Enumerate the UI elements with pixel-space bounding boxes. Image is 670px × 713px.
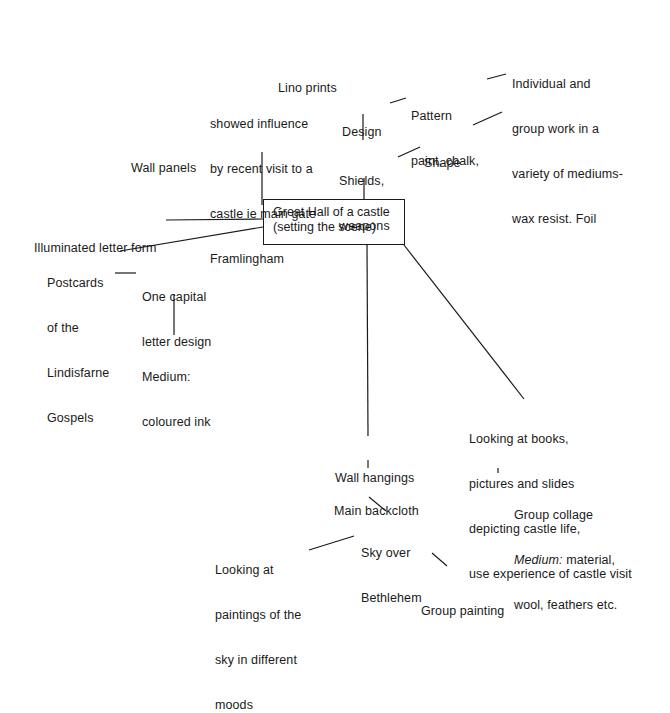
node-wall-panels: Wall panels (131, 131, 196, 191)
node-text: sky in different (215, 653, 301, 668)
node-text: Postcards (47, 276, 109, 291)
medium-label: Medium: (514, 553, 563, 567)
node-shields-weapons: Shields, weapons (339, 144, 390, 249)
node-showed-influence: showed influence by recent visit to a ca… (210, 87, 316, 282)
node-text: Bethlehem (361, 591, 422, 606)
node-text: of the (47, 321, 109, 336)
node-sky-over-bethlehem: Sky over Bethlehem (361, 516, 422, 621)
node-text: Gospels (47, 411, 109, 426)
node-text: group work in a (512, 122, 623, 137)
node-individual-group-work: Individual and group work in a variety o… (512, 47, 623, 242)
node-text: Individual and (512, 77, 623, 92)
node-text: Wall panels (131, 161, 196, 176)
node-text: Group collage (514, 508, 617, 523)
node-text: One capital (142, 290, 211, 305)
node-text: Medium: (142, 370, 211, 385)
link-center-books (404, 245, 524, 399)
node-text: Pattern (411, 109, 479, 124)
node-group-painting: Group painting (421, 574, 504, 634)
node-text: wool, feathers etc. (514, 598, 617, 613)
node-text: Shape (424, 156, 461, 171)
node-text: Lindisfarne (47, 366, 109, 381)
node-text-medium: Medium: material, (514, 553, 617, 568)
node-text: variety of mediums- (512, 167, 623, 182)
link-design-pattern (390, 98, 406, 103)
node-looking-at-paintings: Looking at paintings of the sky in diffe… (215, 533, 301, 713)
node-text: Looking at books, (469, 432, 632, 447)
node-group-collage: Group collage Medium: material, wool, fe… (514, 478, 617, 628)
link-pattern-individual (487, 74, 506, 79)
node-shape: Shape (424, 126, 461, 186)
node-text: by recent visit to a (210, 162, 316, 177)
node-text: Design (342, 125, 382, 140)
medium-value: material, (563, 553, 615, 567)
node-text: moods (215, 698, 301, 713)
link-sky-paintings (309, 536, 354, 550)
node-text: weapons (339, 219, 390, 234)
node-text: showed influence (210, 117, 316, 132)
node-text: paintings of the (215, 608, 301, 623)
node-text: Shields, (339, 174, 390, 189)
link-sky-grouppainting (432, 553, 447, 566)
node-text: castle ie main gate (210, 207, 316, 222)
node-postcards: Postcards of the Lindisfarne Gospels (47, 246, 109, 441)
node-text: coloured ink (142, 415, 211, 430)
node-text: Framlingham (210, 252, 316, 267)
node-text: Looking at (215, 563, 301, 578)
node-text: wax resist. Foil (512, 212, 623, 227)
node-text: Group painting (421, 604, 504, 619)
link-center-wallhangings (367, 245, 368, 436)
node-text: Sky over (361, 546, 422, 561)
node-medium-coloured-ink: Medium: coloured ink (142, 340, 211, 445)
